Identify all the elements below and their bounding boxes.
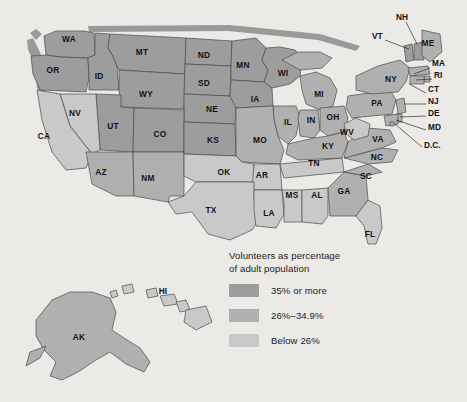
state-label-MT: MT: [136, 47, 148, 57]
state-label-OK: OK: [218, 167, 231, 177]
state-DC: [390, 122, 394, 126]
state-label-ND: ND: [198, 50, 210, 60]
state-label-TN: TN: [308, 158, 319, 168]
state-label-AK: AK: [73, 332, 85, 342]
state-label-IA: IA: [251, 94, 260, 104]
state-label-NV: NV: [69, 108, 81, 118]
state-label-NM: NM: [141, 173, 154, 183]
state-label-AL: AL: [311, 190, 322, 200]
state-AZ: [86, 152, 134, 196]
state-label-FL: FL: [365, 229, 376, 239]
state-NY: [356, 60, 410, 94]
callout-label-RI: RI: [434, 70, 442, 80]
state-label-GA: GA: [338, 186, 351, 196]
leader-line-CT: [409, 84, 426, 93]
state-label-WV: WV: [340, 127, 354, 137]
state-label-PA: PA: [371, 98, 382, 108]
state-label-MI: MI: [314, 89, 324, 99]
state-HI-6: [184, 306, 212, 330]
state-label-MO: MO: [253, 135, 267, 145]
state-label-MS: MS: [286, 190, 299, 200]
state-label-KS: KS: [207, 135, 219, 145]
legend-swatch-mid: [229, 309, 259, 322]
state-label-TX: TX: [205, 205, 216, 215]
state-label-ID: ID: [95, 71, 104, 81]
legend-label-low: Below 26%: [271, 335, 320, 346]
state-label-UT: UT: [107, 121, 118, 131]
leader-line-DE: [400, 116, 426, 117]
legend-rows: 35% or more26%–34.9%Below 26%: [229, 282, 399, 349]
callout-label-CT: CT: [428, 84, 439, 94]
state-label-LA: LA: [263, 208, 274, 218]
us-volunteer-choropleth-map: WAORIDMTNDMNWISDWYNVUTCONEIAMIILINOHKSMO…: [0, 0, 467, 402]
state-label-IL: IL: [284, 117, 292, 127]
state-label-NY: NY: [385, 74, 397, 84]
state-label-SC: SC: [360, 171, 372, 181]
callout-label-DE: DE: [428, 108, 440, 118]
callout-label-NH: NH: [396, 12, 408, 22]
state-label-IN: IN: [307, 115, 316, 125]
state-label-OR: OR: [47, 65, 60, 75]
map-legend: Volunteers as percentage of adult popula…: [229, 250, 399, 362]
legend-row-mid: 26%–34.9%: [229, 307, 399, 324]
state-NJ: [396, 98, 406, 114]
state-label-SD: SD: [198, 78, 210, 88]
state-label-NE: NE: [206, 104, 218, 114]
legend-label-mid: 26%–34.9%: [271, 310, 324, 321]
state-HI-2: [122, 284, 134, 294]
legend-title: Volunteers as percentage of adult popula…: [229, 250, 399, 275]
legend-swatch-high: [229, 284, 259, 297]
legend-swatch-low: [229, 334, 259, 347]
state-label-AR: AR: [256, 170, 268, 180]
legend-row-high: 35% or more: [229, 282, 399, 299]
state-label-ME: ME: [422, 38, 435, 48]
state-HI-1: [110, 290, 118, 298]
state-label-CO: CO: [154, 129, 167, 139]
state-label-WI: WI: [278, 68, 289, 78]
state-label-OH: OH: [327, 112, 340, 122]
callout-label-VT: VT: [372, 31, 383, 41]
state-label-VA: VA: [372, 134, 383, 144]
state-label-HI: HI: [159, 286, 168, 296]
state-HI-3: [146, 288, 158, 298]
callout-label-NJ: NJ: [428, 96, 439, 106]
state-label-AZ: AZ: [95, 167, 106, 177]
state-MA: [408, 66, 430, 76]
callout-label-MA: MA: [432, 58, 445, 68]
state-OR: [31, 55, 89, 92]
callout-label-D.C.: D.C.: [424, 140, 441, 150]
state-VT: [404, 44, 414, 62]
legend-label-high: 35% or more: [271, 285, 327, 296]
state-label-CA: CA: [38, 131, 50, 141]
leader-line-VT: [385, 40, 409, 49]
state-label-KY: KY: [322, 141, 334, 151]
state-label-MN: MN: [236, 60, 249, 70]
state-AK-peninsula: [26, 346, 46, 366]
state-label-WY: WY: [139, 89, 153, 99]
leader-line-NH: [406, 22, 417, 44]
callout-label-MD: MD: [428, 122, 441, 132]
state-AK: [36, 292, 150, 380]
state-label-NC: NC: [371, 152, 383, 162]
state-label-WA: WA: [62, 34, 76, 44]
legend-row-low: Below 26%: [229, 332, 399, 349]
